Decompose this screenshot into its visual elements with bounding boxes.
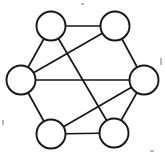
scan-speck <box>160 58 162 65</box>
scan-speck <box>150 150 154 152</box>
graph-canvas <box>0 0 165 160</box>
edge-bottom-left-to-right <box>51 80 144 134</box>
scan-speck <box>81 3 84 5</box>
node-bottom-left <box>37 120 66 149</box>
node-bottom-right <box>100 119 129 148</box>
graph-figure <box>0 0 165 160</box>
edge-layer <box>21 26 144 134</box>
node-right <box>130 66 159 95</box>
node-top-left <box>37 12 66 41</box>
node-left <box>7 66 36 95</box>
scan-speck <box>2 120 4 125</box>
node-top-right <box>101 12 130 41</box>
